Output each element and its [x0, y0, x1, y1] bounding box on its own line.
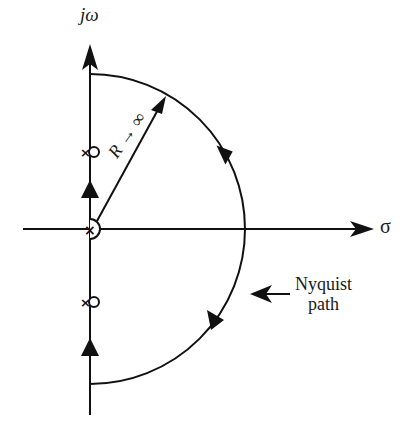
upper-direction-arrow	[81, 180, 99, 198]
lower-pole-icon: ×	[80, 295, 91, 310]
origin-pole-icon: ×	[84, 222, 96, 238]
nyquist-path-label-line2: path	[295, 294, 352, 314]
diagram-graphics: × × ×	[0, 0, 407, 432]
sigma-axis-label: σ	[380, 215, 391, 238]
lower-direction-arrow	[81, 338, 99, 356]
upper-pole-icon: ×	[80, 145, 91, 160]
jw-axis-label: jω	[80, 4, 99, 26]
nyquist-path-label-line1: Nyquist	[295, 274, 352, 294]
radius-arrowhead	[151, 96, 166, 114]
nyquist-diagram: × × × jω σ R → ∞ Nyquist path	[0, 0, 407, 432]
nyquist-path-label: Nyquist path	[295, 274, 352, 314]
